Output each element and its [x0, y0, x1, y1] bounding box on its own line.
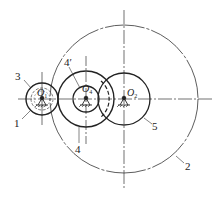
gear-1-label: 1 [14, 117, 20, 129]
gear-4prime-label: 4′ [64, 56, 72, 68]
center-label-o2: O2 [127, 87, 137, 99]
gear-4-label: 4 [75, 143, 81, 155]
pivot-o4-icon [79, 96, 92, 107]
gear-2-label: 2 [185, 160, 191, 172]
gear-train-diagram: O1 O4 O2 3 1 4′ 4 5 2 [0, 0, 217, 197]
center-label-o4: O4 [82, 83, 92, 95]
gear-5-label: 5 [152, 120, 158, 132]
center-lines [18, 10, 212, 190]
gear-3-label: 3 [15, 70, 21, 82]
